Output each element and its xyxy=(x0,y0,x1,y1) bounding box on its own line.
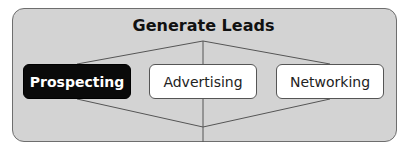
node-networking: Networking xyxy=(276,64,384,99)
node-advertising: Advertising xyxy=(149,64,257,99)
node-prospecting: Prospecting xyxy=(23,64,131,99)
diagram-title: Generate Leads xyxy=(0,16,407,35)
